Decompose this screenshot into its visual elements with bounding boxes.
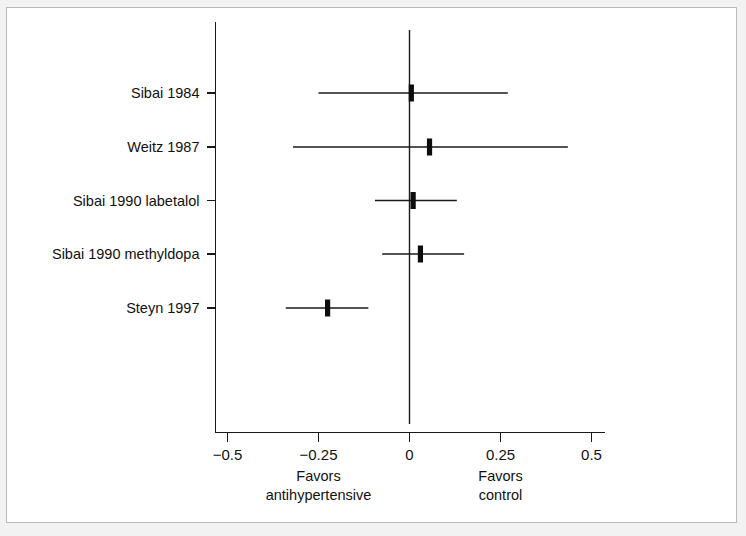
point-estimate-marker: [409, 85, 414, 102]
study-label: Sibai 1990 methyldopa: [52, 246, 200, 262]
favors-caption-line: Favors: [296, 468, 340, 484]
forest-row: Sibai 1990 methyldopa: [52, 246, 464, 263]
point-estimate-marker: [325, 300, 330, 317]
point-estimate-marker: [411, 192, 416, 209]
favors-caption-line: Favors: [478, 468, 522, 484]
favors-caption-line: control: [479, 487, 523, 503]
axis-captions: FavorsantihypertensiveFavorscontrol: [266, 468, 523, 503]
forest-row: Sibai 1990 labetalol: [73, 192, 457, 209]
x-axis-tick-label: −0.5: [213, 446, 243, 463]
study-label: Steyn 1997: [126, 300, 199, 316]
study-label: Weitz 1987: [127, 139, 199, 155]
x-axis-tick-label: 0.5: [581, 446, 602, 463]
forest-row: Steyn 1997: [126, 300, 368, 317]
forest-row: Weitz 1987: [127, 139, 568, 156]
favors-caption-line: antihypertensive: [266, 487, 372, 503]
plot-rows: Sibai 1984Weitz 1987Sibai 1990 labetalol…: [52, 85, 568, 317]
x-axis-ticks: −0.5−0.2500.250.5: [213, 433, 602, 463]
forest-row: Sibai 1984: [131, 85, 508, 102]
point-estimate-marker: [427, 139, 432, 156]
x-axis-tick-label: 0: [405, 446, 413, 463]
forest-plot: Sibai 1984Weitz 1987Sibai 1990 labetalol…: [0, 0, 746, 536]
study-label: Sibai 1984: [131, 85, 200, 101]
figure-page: Sibai 1984Weitz 1987Sibai 1990 labetalol…: [0, 0, 746, 536]
study-label: Sibai 1990 labetalol: [73, 193, 200, 209]
x-axis-tick-label: 0.25: [486, 446, 515, 463]
x-axis-tick-label: −0.25: [300, 446, 338, 463]
point-estimate-marker: [418, 246, 423, 263]
plot-axes: [216, 22, 606, 433]
